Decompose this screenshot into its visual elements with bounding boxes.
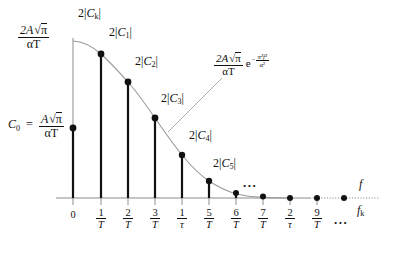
c0-equals: =: [26, 117, 33, 131]
tick-6-num: 6: [231, 207, 241, 218]
stem-label-1: 2|C1|: [109, 26, 132, 40]
tick-label-7: 7T: [253, 207, 273, 230]
tick-label-6: 6T: [226, 207, 246, 230]
tick-8-den: τ: [285, 218, 294, 230]
tick-0-whole: 0: [70, 209, 75, 220]
spectrum-points: [70, 51, 347, 201]
axis-label-fk-sub: k: [360, 209, 364, 218]
tick-2-den: T: [123, 218, 133, 230]
tick-1-num: 1: [96, 207, 106, 218]
peak-value-label: 2Aπ αT: [18, 23, 49, 50]
point-6: [233, 190, 239, 196]
point-5: [206, 178, 212, 184]
point-9: [314, 195, 320, 201]
tick-4-den: τ: [177, 218, 186, 230]
tick-3-num: 3: [150, 207, 160, 218]
tick-3-den: T: [150, 218, 160, 230]
axis-label-f: f: [359, 178, 362, 190]
env-coef-pi: π: [235, 52, 241, 64]
tick-label-4: 1τ: [172, 207, 192, 230]
stem-label-3: 2|C3|: [161, 92, 184, 106]
stem-label-4: 2|C4|: [189, 129, 212, 143]
point-0: [70, 125, 77, 132]
env-coef-den: αT: [214, 65, 243, 78]
tick-4-num: 1: [177, 207, 186, 218]
c0-symbol: C: [8, 117, 16, 131]
tick-7-num: 7: [258, 207, 268, 218]
tick-9-num: 9: [312, 207, 322, 218]
c0-label: C0 = Aπ αT: [8, 112, 64, 139]
tick-label-1: 1T: [91, 207, 111, 230]
tick-label-ellipsis: ...: [330, 212, 352, 228]
stem-label-5: 2|C5|: [213, 157, 236, 171]
tick-6-den: T: [231, 218, 241, 230]
point-8: [287, 195, 293, 201]
env-exp-num: π²f²: [256, 53, 269, 60]
peak-num-pi: π: [41, 23, 47, 36]
tick-label-9: 9T: [307, 207, 327, 230]
c0-subscript: 0: [16, 124, 20, 133]
peak-num-coef: 2A: [20, 23, 33, 37]
axis-label-fk: fk: [357, 204, 364, 218]
tick-label-5: 5T: [199, 207, 219, 230]
tick-2-num: 2: [123, 207, 133, 218]
tick-9-den: T: [312, 218, 322, 230]
stem-label-2: 2|C2|: [135, 55, 158, 69]
tick-label-0: 0: [63, 209, 83, 220]
stem-label-k: 2|Ck|: [78, 7, 101, 21]
tick-label-2: 2T: [118, 207, 138, 230]
point-7: [260, 194, 266, 200]
tick-label-3: 3T: [145, 207, 165, 230]
point-1: [98, 51, 105, 58]
point-10: [341, 195, 347, 201]
point-2: [125, 79, 132, 86]
c0-num-pi: π: [56, 112, 62, 125]
tick-label-8: 2τ: [280, 207, 300, 230]
tick-5-num: 5: [204, 207, 214, 218]
tick-7-den: T: [258, 218, 268, 230]
envelope-formula: 2Aπ αT e−π²f²α²: [214, 52, 269, 77]
tail-ellipsis: ...: [243, 176, 257, 189]
tick-5-den: T: [204, 218, 214, 230]
tick-1-den: T: [96, 218, 106, 230]
peak-den: αT: [18, 37, 49, 51]
env-exp-den: α²: [256, 60, 269, 68]
env-e: e: [246, 57, 251, 69]
c0-den: αT: [39, 126, 64, 140]
axis-ticks: [73, 198, 317, 205]
point-3: [152, 115, 159, 122]
env-coef-num: 2A: [216, 52, 228, 64]
point-4: [179, 152, 185, 158]
tick-8-num: 2: [285, 207, 294, 218]
